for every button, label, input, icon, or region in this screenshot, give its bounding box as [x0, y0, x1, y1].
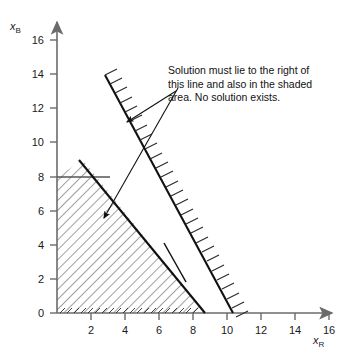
y-tick-label: 4 [14, 239, 44, 251]
y-tick-label: 16 [14, 34, 44, 46]
x-axis-title-subscript: R [319, 340, 325, 349]
plot-area [0, 0, 343, 360]
x-tick-label: 16 [323, 324, 335, 336]
x-axis-ticks [91, 313, 329, 320]
y-tick-label: 8 [14, 171, 44, 183]
y-tick-label: 2 [14, 273, 44, 285]
x-tick-label: 8 [190, 324, 196, 336]
y-axis-title-subscript: B [16, 26, 21, 35]
infeasibility-note: Solution must lie to the right of this l… [168, 64, 343, 105]
x-tick-label: 6 [156, 324, 162, 336]
x-tick-label: 14 [289, 324, 301, 336]
y-tick-label: 6 [14, 205, 44, 217]
shaded-region-direction-arrow [104, 88, 178, 218]
x-tick-label: 4 [122, 324, 128, 336]
y-axis-title: xB [10, 20, 21, 35]
x-axis-title: xR [313, 334, 324, 349]
linear-programming-chart: 16 14 12 10 8 6 4 2 0 2 4 6 8 10 12 14 1… [0, 0, 343, 360]
y-tick-label: 14 [14, 68, 44, 80]
y-tick-label: 12 [14, 102, 44, 114]
x-tick-label: 10 [221, 324, 233, 336]
x-tick-label: 2 [88, 324, 94, 336]
y-tick-label: 0 [14, 307, 44, 319]
feasible-shaded-area [57, 160, 205, 313]
x-tick-label: 12 [255, 324, 267, 336]
y-tick-label: 10 [14, 136, 44, 148]
y-axis-ticks [50, 40, 57, 313]
